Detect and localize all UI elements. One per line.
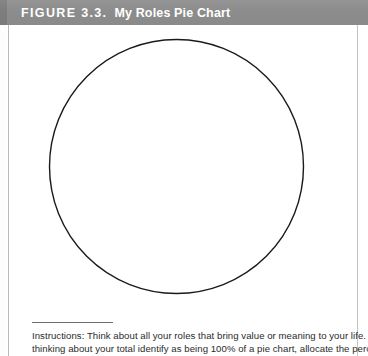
instructions-line-2: thinking about your total identify as be… (32, 342, 354, 355)
page-right-edge-line (357, 25, 358, 356)
page-left-margin (0, 25, 7, 356)
pie-circle[interactable] (50, 40, 304, 294)
page-left-edge-line (8, 25, 9, 356)
page-right-margin (358, 25, 368, 356)
figure-caption-band: FIGURE 3.3. My Roles Pie Chart (0, 0, 368, 25)
figure-number-label: FIGURE 3.3. (21, 6, 107, 20)
pie-chart-area[interactable] (48, 38, 305, 295)
instructions-text: Instructions: Think about all your roles… (32, 329, 354, 355)
footnote-rule (32, 322, 113, 323)
worksheet-page: FIGURE 3.3. My Roles Pie Chart Instructi… (0, 0, 368, 356)
figure-title-label: My Roles Pie Chart (114, 6, 230, 20)
instructions-line-1: Instructions: Think about all your roles… (32, 329, 354, 342)
figure-caption: FIGURE 3.3. My Roles Pie Chart (21, 4, 230, 22)
band-edge-shadow (0, 0, 7, 25)
pie-chart-circle-outline[interactable] (48, 38, 305, 295)
